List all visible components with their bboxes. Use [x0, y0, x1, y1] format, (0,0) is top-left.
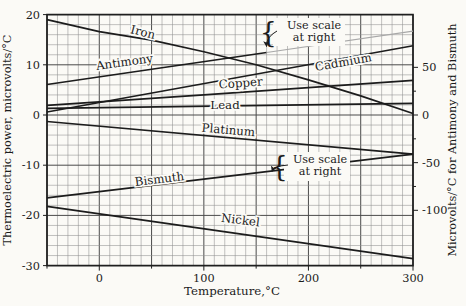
bismuth-line	[47, 154, 413, 198]
note-top-text-line2: at right	[293, 31, 336, 44]
x-tick-label-300: 300	[402, 272, 424, 285]
y-left-tick-label-0: 0	[33, 109, 40, 122]
y-left-tick-label--30: -30	[22, 260, 40, 273]
axis-tick-labels: 010020030020100-10-20-30500-50-100	[22, 9, 448, 285]
series-labels: IronAntimonyCadmiumCopperLeadPlatinumBis…	[94, 22, 373, 229]
y-right-tick-label-0: 0	[422, 109, 429, 122]
callout-notes: Use scaleat right{Use scaleat right{	[260, 17, 350, 182]
thermoelectric-chart-figure: Use scaleat right{Use scaleat right{ Iro…	[0, 0, 466, 306]
y-axis-right-title: Microvolts/°C for Antimony and Bismuth	[446, 23, 459, 256]
lead-label: Lead	[210, 98, 240, 112]
y-axis-left-title: Thermoelectric power, microvolts/°C	[1, 34, 14, 245]
y-right-tick-label--100: -100	[422, 204, 447, 217]
y-right-tick-label-50: 50	[422, 61, 436, 74]
chart-canvas: Use scaleat right{Use scaleat right{ Iro…	[0, 0, 466, 306]
y-left-tick-label--20: -20	[22, 209, 40, 222]
iron-label: Iron	[129, 22, 157, 42]
y-right-tick-label--50: -50	[422, 157, 440, 170]
copper-label: Copper	[218, 74, 263, 91]
nickel-label: Nickel	[220, 211, 260, 230]
y-left-tick-label-10: 10	[26, 59, 40, 72]
note-top: Use scaleat right{	[260, 17, 345, 48]
note-bottom-text-line2: at right	[299, 165, 342, 178]
note-bottom: Use scaleat right{	[271, 151, 350, 182]
y-left-tick-label--10: -10	[22, 159, 40, 172]
bismuth-label: Bismuth	[134, 169, 185, 189]
x-axis-title: Temperature,°C	[184, 284, 280, 298]
cadmium-label: Cadmium	[314, 50, 373, 74]
x-tick-label-200: 200	[298, 272, 320, 285]
y-left-tick-label-20: 20	[26, 9, 40, 22]
x-tick-label-0: 0	[96, 272, 103, 285]
